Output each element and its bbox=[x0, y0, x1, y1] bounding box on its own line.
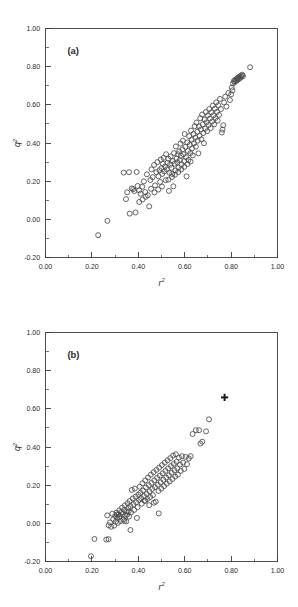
data-points bbox=[88, 417, 211, 559]
plot-frame bbox=[46, 333, 278, 562]
data-point bbox=[139, 501, 144, 506]
data-point bbox=[121, 170, 126, 175]
data-point bbox=[125, 190, 130, 195]
data-point bbox=[156, 511, 161, 516]
data-point bbox=[134, 515, 139, 520]
x-tick-label: 0.00 bbox=[39, 567, 53, 575]
x-axis-title: r2 bbox=[159, 581, 166, 591]
x-tick-label: 1.00 bbox=[271, 567, 285, 575]
panel-b-svg: 0.000.200.400.600.801.00-0.200.000.200.4… bbox=[0, 304, 298, 607]
scatter-panel-a: 0.000.200.400.600.801.00-0.200.000.200.4… bbox=[0, 0, 298, 303]
data-point bbox=[188, 128, 193, 133]
x-tick-label: 0.80 bbox=[224, 263, 238, 271]
data-points bbox=[96, 65, 253, 238]
figure-container: 0.000.200.400.600.801.00-0.200.000.200.4… bbox=[0, 0, 298, 607]
y-tick-label: 0.80 bbox=[27, 63, 41, 71]
x-tick-label: 0.20 bbox=[85, 263, 99, 271]
data-point bbox=[92, 536, 97, 541]
data-point bbox=[155, 160, 160, 165]
data-point bbox=[144, 172, 149, 177]
data-point bbox=[127, 170, 132, 175]
data-point bbox=[184, 174, 189, 179]
scatter-panel-b: 0.000.200.400.600.801.00-0.200.000.200.4… bbox=[0, 304, 298, 607]
x-tick-label: 1.00 bbox=[271, 263, 285, 271]
y-tick-label: 0.40 bbox=[27, 444, 41, 452]
data-point bbox=[105, 218, 110, 223]
y-tick-label: 0.80 bbox=[27, 367, 41, 375]
data-point bbox=[171, 184, 176, 189]
panel-label: (b) bbox=[68, 349, 80, 360]
data-point bbox=[176, 455, 181, 460]
x-tick-label: 0.40 bbox=[132, 263, 146, 271]
x-tick-label: 0.60 bbox=[178, 567, 192, 575]
x-tick-label: 0.20 bbox=[85, 567, 99, 575]
y-tick-label: 0.00 bbox=[27, 216, 41, 224]
y-tick-label: 0.40 bbox=[27, 140, 41, 148]
data-point bbox=[133, 210, 138, 215]
data-point bbox=[124, 197, 129, 202]
data-point bbox=[140, 184, 145, 189]
y-tick-label: 0.00 bbox=[27, 520, 41, 528]
data-point bbox=[96, 233, 101, 238]
panel-label: (a) bbox=[68, 45, 79, 56]
data-point bbox=[129, 487, 134, 492]
data-point bbox=[248, 65, 253, 70]
data-point bbox=[147, 503, 152, 508]
x-tick-label: 0.60 bbox=[178, 263, 192, 271]
data-point bbox=[132, 486, 137, 491]
data-point bbox=[135, 505, 140, 510]
y-tick-label: 1.00 bbox=[27, 25, 41, 33]
plot-frame bbox=[46, 29, 278, 258]
data-point bbox=[105, 513, 110, 518]
data-point bbox=[201, 141, 206, 146]
panel-b-plot-area: 0.000.200.400.600.801.00-0.200.000.200.4… bbox=[12, 329, 285, 591]
data-point bbox=[134, 170, 139, 175]
y-tick-label: 0.60 bbox=[27, 405, 41, 413]
highlight-cross-marker bbox=[221, 394, 228, 401]
data-point bbox=[88, 554, 93, 559]
y-tick-label: 0.20 bbox=[27, 178, 41, 186]
data-point bbox=[218, 107, 223, 112]
data-point bbox=[141, 179, 146, 184]
y-axis-title: q2 bbox=[12, 442, 22, 451]
panel-a-plot-area: 0.000.200.400.600.801.00-0.200.000.200.4… bbox=[12, 25, 285, 287]
data-point bbox=[197, 428, 202, 433]
data-point bbox=[128, 528, 133, 533]
y-tick-label: 1.00 bbox=[27, 329, 41, 337]
x-axis-title: r2 bbox=[159, 277, 166, 287]
data-point bbox=[204, 429, 209, 434]
data-point bbox=[143, 478, 148, 483]
x-tick-label: 0.00 bbox=[39, 263, 53, 271]
x-tick-label: 0.80 bbox=[224, 567, 238, 575]
data-point bbox=[147, 204, 152, 209]
data-point bbox=[227, 98, 232, 103]
data-point bbox=[156, 174, 161, 179]
y-tick-label: -0.20 bbox=[24, 558, 40, 566]
y-tick-label: 0.20 bbox=[27, 482, 41, 490]
y-axis-title: q2 bbox=[12, 138, 22, 147]
data-point bbox=[166, 188, 171, 193]
data-point bbox=[224, 104, 229, 109]
data-point bbox=[146, 475, 151, 480]
data-point bbox=[173, 144, 178, 149]
data-point bbox=[207, 417, 212, 422]
data-point bbox=[127, 211, 132, 216]
y-tick-label: -0.20 bbox=[24, 254, 40, 262]
x-tick-label: 0.40 bbox=[132, 567, 146, 575]
data-point bbox=[159, 184, 164, 189]
data-point bbox=[140, 481, 145, 486]
y-tick-label: 0.60 bbox=[27, 101, 41, 109]
data-point bbox=[217, 96, 222, 101]
panel-a-svg: 0.000.200.400.600.801.00-0.200.000.200.4… bbox=[0, 0, 298, 303]
data-point bbox=[152, 162, 157, 167]
data-point bbox=[196, 151, 201, 156]
data-point bbox=[143, 190, 148, 195]
